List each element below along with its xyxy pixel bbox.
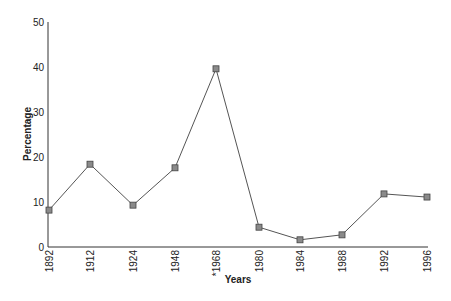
y-axis: 01020304050	[33, 17, 48, 253]
x-tick-label: 1924	[128, 250, 139, 273]
x-tick-label: 1892	[44, 250, 55, 273]
chart-canvas: 01020304050 1892191219241948*19681980198…	[0, 0, 451, 301]
data-point-marker	[87, 161, 93, 167]
data-point-marker	[424, 194, 430, 200]
y-tick-label: 50	[33, 17, 45, 28]
y-tick-label: 30	[33, 107, 45, 118]
x-tick-label: 1992	[379, 250, 390, 273]
x-tick-label: 1980	[254, 250, 265, 273]
data-point-marker	[256, 224, 262, 230]
x-tick-label: 1984	[295, 250, 306, 273]
line-chart: 01020304050 1892191219241948*19681980198…	[0, 0, 451, 301]
data-point-marker	[297, 237, 303, 243]
x-tick-label: 1912	[85, 250, 96, 273]
y-tick-label: 10	[33, 197, 45, 208]
x-tick-label: 1948	[170, 250, 181, 273]
data-point-marker	[130, 202, 136, 208]
y-tick-label: 40	[33, 62, 45, 73]
x-tick-label: 1996	[422, 250, 433, 273]
x-tick-label: 1988	[337, 250, 348, 273]
data-point-marker	[172, 165, 178, 171]
data-point-marker	[381, 191, 387, 197]
data-point-marker	[339, 232, 345, 238]
data-series	[46, 66, 430, 243]
data-point-marker	[213, 66, 219, 72]
x-axis: 1892191219241948*19681980198419881992199…	[44, 247, 433, 276]
x-tick-label: *1968	[211, 250, 222, 277]
y-axis-label: Percentage	[22, 107, 33, 161]
series-line	[49, 69, 427, 240]
x-axis-label: Years	[225, 274, 252, 285]
data-point-marker	[46, 207, 52, 213]
y-tick-label: 20	[33, 152, 45, 163]
